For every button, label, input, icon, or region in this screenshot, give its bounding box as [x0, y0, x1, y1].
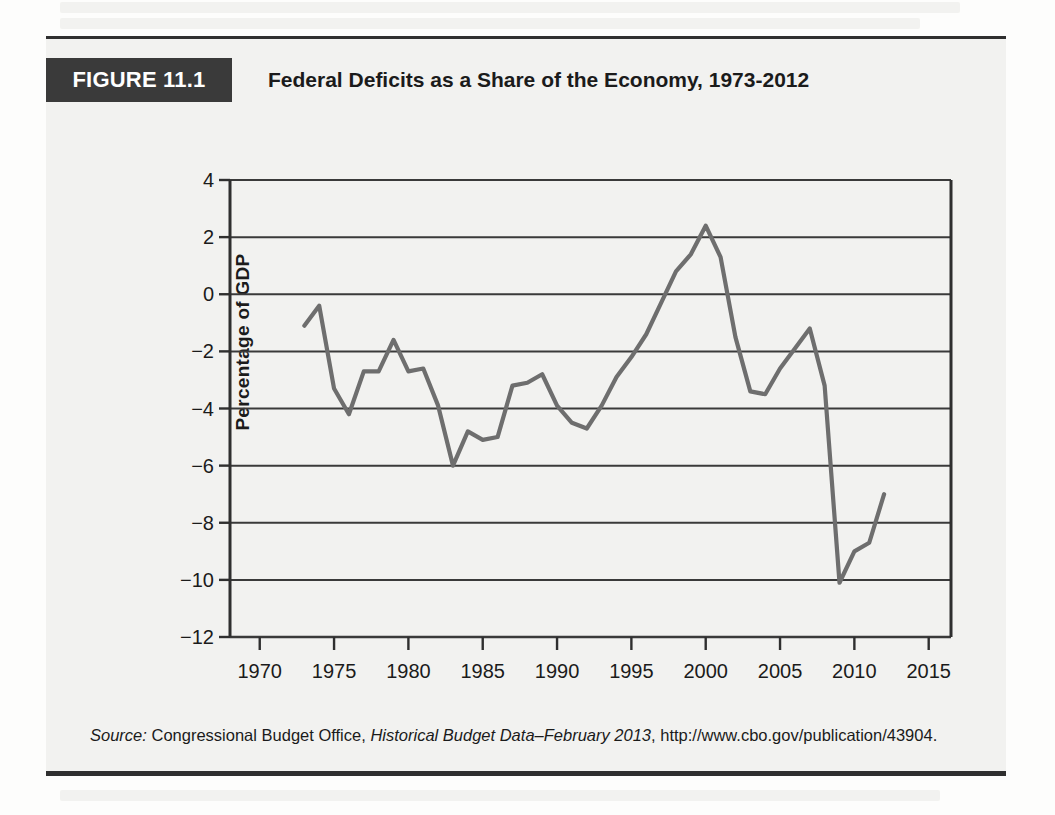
svg-text:1995: 1995	[609, 660, 654, 682]
svg-text:−8: −8	[191, 512, 214, 534]
line-chart: 420−2−4−6−8−10−12 1970197519801985199019…	[46, 106, 1006, 706]
svg-text:1980: 1980	[386, 660, 431, 682]
chart-area: Percentage of GDP 420−2−4−6−8−10−12 1970…	[46, 106, 1006, 706]
source-organization: Congressional Budget Office,	[151, 726, 365, 744]
svg-text:−12: −12	[180, 626, 214, 648]
svg-text:2010: 2010	[832, 660, 877, 682]
figure-header: FIGURE 11.1 Federal Deficits as a Share …	[46, 58, 1006, 102]
y-axis-tick-marks	[219, 180, 230, 637]
svg-text:−2: −2	[191, 340, 214, 362]
x-axis-tick-marks	[260, 637, 929, 650]
figure-source-note: Source: Congressional Budget Office, His…	[90, 724, 970, 748]
svg-text:2005: 2005	[758, 660, 803, 682]
figure-card: FIGURE 11.1 Federal Deficits as a Share …	[46, 36, 1006, 776]
x-axis-tick-labels: 1970197519801985199019952000200520102015	[237, 660, 950, 682]
figure-title: Federal Deficits as a Share of the Econo…	[268, 68, 809, 92]
deficit-series-line	[304, 226, 884, 583]
top-divider	[46, 36, 1006, 39]
svg-text:1990: 1990	[535, 660, 580, 682]
svg-text:−4: −4	[191, 398, 214, 420]
figure-number-badge: FIGURE 11.1	[46, 58, 232, 102]
svg-text:1970: 1970	[237, 660, 282, 682]
source-url: , http://www.cbo.gov/publication/43904.	[651, 726, 937, 744]
svg-text:2015: 2015	[906, 660, 951, 682]
svg-text:2000: 2000	[683, 660, 728, 682]
svg-text:−6: −6	[191, 455, 214, 477]
source-publication: Historical Budget Data–February 2013	[370, 726, 651, 744]
svg-text:0: 0	[203, 283, 214, 305]
svg-text:1975: 1975	[312, 660, 357, 682]
svg-text:2: 2	[203, 226, 214, 248]
svg-text:−10: −10	[180, 569, 214, 591]
svg-text:1985: 1985	[460, 660, 505, 682]
source-label: Source:	[90, 726, 147, 744]
y-axis-tick-labels: 420−2−4−6−8−10−12	[180, 169, 214, 648]
svg-text:4: 4	[203, 169, 214, 191]
bottom-divider	[46, 771, 1006, 776]
grid-lines	[230, 180, 951, 637]
